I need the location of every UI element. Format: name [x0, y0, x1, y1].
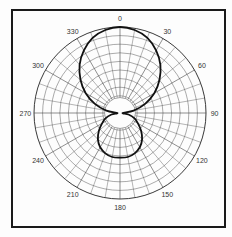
grid-spoke: [125, 32, 149, 98]
angle-label: 300: [32, 62, 44, 69]
angle-label: 180: [114, 204, 126, 211]
grid-center-circle: [105, 98, 136, 129]
angle-label: 270: [20, 110, 32, 117]
polar-chart: 0306090120150180210240270300330: [0, 0, 232, 237]
angle-label: 240: [32, 157, 44, 164]
grid-spoke: [128, 39, 163, 100]
angle-label: 120: [196, 157, 208, 164]
polar-grid: [34, 27, 206, 199]
angle-label: 0: [118, 15, 122, 22]
grid-spoke: [91, 128, 115, 194]
angle-label: 60: [198, 62, 206, 69]
grid-spoke: [135, 118, 201, 142]
grid-spoke: [133, 70, 194, 105]
grid-spoke: [46, 70, 107, 105]
grid-spoke: [77, 39, 112, 100]
grid-spoke: [77, 126, 112, 187]
grid-spoke: [128, 126, 163, 187]
grid-spoke: [91, 32, 115, 98]
angle-label: 90: [211, 110, 219, 117]
grid-spoke: [39, 118, 105, 142]
angle-label: 150: [161, 191, 173, 198]
grid-spoke: [125, 128, 149, 194]
angle-label: 330: [67, 28, 79, 35]
angle-label: 30: [163, 28, 171, 35]
angle-label: 210: [67, 191, 79, 198]
